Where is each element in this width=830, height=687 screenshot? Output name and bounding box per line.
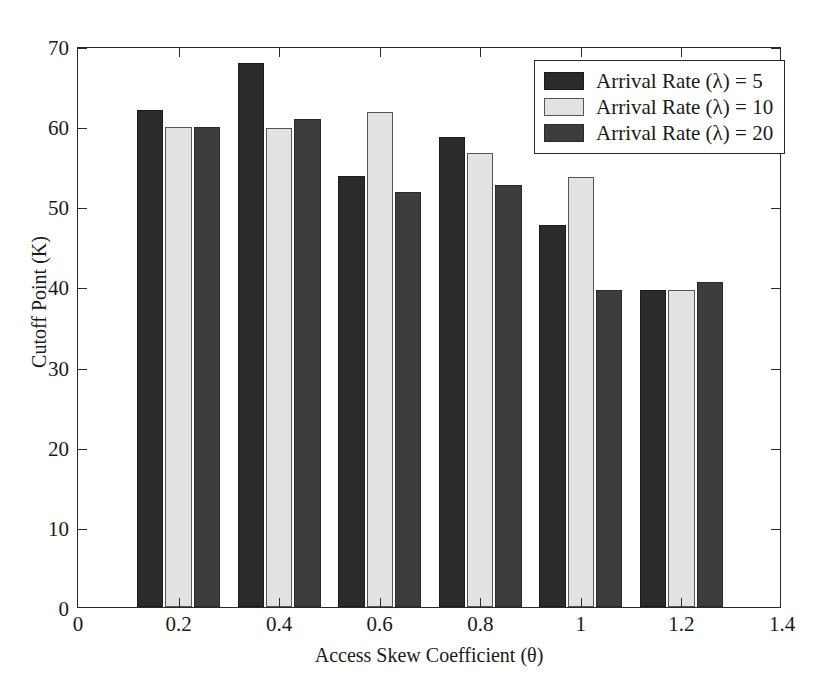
y-tick-label: 40	[48, 278, 69, 299]
x-tick-mark	[581, 48, 582, 57]
y-tick-mark	[78, 449, 87, 450]
x-tick-mark	[380, 598, 381, 607]
y-axis-label: Cutoff Point (K)	[29, 102, 49, 502]
x-tick-mark	[480, 48, 481, 57]
bar	[266, 128, 292, 607]
x-tick-label: 1.2	[668, 614, 694, 635]
bar	[439, 137, 465, 607]
x-tick-mark	[480, 598, 481, 607]
bar	[495, 185, 521, 607]
bar	[640, 290, 666, 607]
y-tick-mark	[771, 288, 780, 289]
x-tick-label: 0.4	[266, 614, 292, 635]
y-tick-mark	[771, 529, 780, 530]
bar	[238, 63, 264, 607]
y-tick-label: 20	[48, 438, 69, 459]
x-tick-mark	[581, 598, 582, 607]
bar	[568, 177, 594, 607]
y-tick-mark	[78, 288, 87, 289]
y-tick-label: 0	[59, 599, 70, 620]
x-tick-mark	[279, 598, 280, 607]
chart-figure: 010203040506070 00.20.40.60.811.21.4 Acc…	[0, 0, 830, 687]
y-tick-mark	[771, 208, 780, 209]
bar	[395, 192, 421, 607]
legend-swatch-icon	[544, 98, 584, 116]
y-tick-mark	[78, 369, 87, 370]
bar	[539, 225, 565, 607]
x-tick-label: 0.2	[165, 614, 191, 635]
y-tick-mark	[771, 369, 780, 370]
y-tick-mark	[771, 48, 780, 49]
bar	[194, 127, 220, 607]
x-tick-label: 1	[576, 614, 587, 635]
y-tick-mark	[771, 449, 780, 450]
x-tick-mark	[380, 48, 381, 57]
x-tick-mark	[681, 598, 682, 607]
x-tick-mark	[681, 48, 682, 57]
bar	[294, 119, 320, 607]
legend-label: Arrival Rate (λ) = 20	[596, 123, 773, 144]
bar	[137, 110, 163, 607]
y-tick-label: 10	[48, 518, 69, 539]
y-tick-mark	[78, 48, 87, 49]
x-tick-mark	[279, 48, 280, 57]
legend-item: Arrival Rate (λ) = 5	[544, 68, 773, 94]
bar	[596, 290, 622, 607]
legend-label: Arrival Rate (λ) = 5	[596, 71, 763, 92]
legend-label: Arrival Rate (λ) = 10	[596, 97, 773, 118]
x-tick-label: 0.6	[367, 614, 393, 635]
chart-legend: Arrival Rate (λ) = 5Arrival Rate (λ) = 1…	[534, 60, 785, 154]
x-tick-mark	[179, 48, 180, 57]
y-tick-mark	[78, 529, 87, 530]
bar	[668, 290, 694, 607]
legend-item: Arrival Rate (λ) = 10	[544, 94, 773, 120]
x-tick-mark	[179, 598, 180, 607]
bar	[697, 282, 723, 607]
bar	[367, 112, 393, 607]
bar	[338, 176, 364, 607]
bar	[165, 127, 191, 607]
y-tick-label: 60	[48, 118, 69, 139]
y-tick-label: 70	[48, 38, 69, 59]
x-axis-label: Access Skew Coefficient (θ)	[77, 645, 781, 665]
legend-swatch-icon	[544, 72, 584, 90]
y-tick-label: 30	[48, 358, 69, 379]
y-tick-mark	[78, 208, 87, 209]
x-tick-label: 0	[73, 614, 84, 635]
x-tick-label: 1.4	[769, 614, 795, 635]
bar	[467, 153, 493, 607]
y-tick-mark	[78, 128, 87, 129]
legend-swatch-icon	[544, 124, 584, 142]
x-tick-label: 0.8	[467, 614, 493, 635]
legend-item: Arrival Rate (λ) = 20	[544, 120, 773, 146]
y-tick-label: 50	[48, 198, 69, 219]
